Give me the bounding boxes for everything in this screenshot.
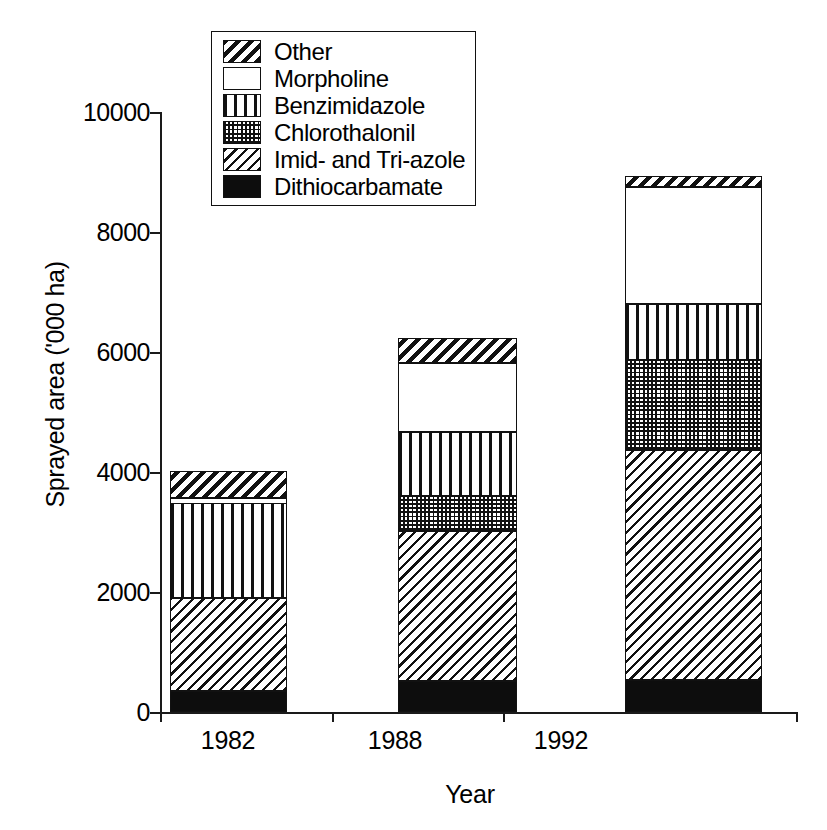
legend-label-imid-and-tri-azole: Imid- and Tri-azole <box>274 148 465 172</box>
y-tick-2000 <box>150 592 161 594</box>
y-tick-8000 <box>150 232 161 234</box>
legend-item-morpholine: Morpholine <box>223 66 389 91</box>
legend-swatch-imid-and-tri-azole-icon <box>223 148 261 171</box>
y-axis-line <box>160 112 162 714</box>
legend: Other Morpholine Benzimidazole Chlorotha… <box>211 31 476 206</box>
y-tick-4000 <box>150 472 161 474</box>
legend-item-benzimidazole: Benzimidazole <box>223 93 425 118</box>
x-axis-line <box>160 712 798 714</box>
y-tick-10000 <box>150 112 161 114</box>
x-tick-left <box>160 712 162 722</box>
legend-item-other: Other <box>223 39 332 64</box>
legend-swatch-other-icon <box>223 40 261 63</box>
x-axis-title: Year <box>300 780 640 809</box>
legend-label-chlorothalonil: Chlorothalonil <box>274 121 415 145</box>
legend-swatch-chlorothalonil-icon <box>223 121 261 144</box>
legend-swatch-morpholine-icon <box>223 67 261 90</box>
legend-label-other: Other <box>274 40 332 64</box>
bar-segment-1992-chlorothalonil <box>625 360 762 450</box>
x-tick-2 <box>503 712 505 722</box>
bar-segment-1982-benzimidazole <box>170 503 287 598</box>
bar-segment-1992-imid-and-tri-azole <box>625 450 762 680</box>
legend-swatch-dithiocarbamate-icon <box>223 175 261 198</box>
legend-swatch-benzimidazole-icon <box>223 94 261 117</box>
bar-segment-1988-imid-and-tri-azole <box>398 531 517 681</box>
bar-segment-1988-morpholine <box>398 363 517 432</box>
y-tick-label-4000: 4000 <box>76 460 150 485</box>
y-tick-label-10000: 10000 <box>76 100 150 125</box>
x-tick-label-1988: 1988 <box>305 726 485 755</box>
x-tick-right <box>796 712 798 722</box>
chart-canvas: 10000 8000 6000 4000 2000 0 Sprayed area… <box>0 0 827 830</box>
bar-segment-1982-other <box>170 471 287 498</box>
y-tick-6000 <box>150 352 161 354</box>
legend-item-chlorothalonil: Chlorothalonil <box>223 120 415 145</box>
x-tick-label-1992: 1992 <box>471 726 651 755</box>
legend-label-benzimidazole: Benzimidazole <box>274 94 425 118</box>
bar-segment-1988-benzimidazole <box>398 432 517 496</box>
x-tick-1 <box>332 712 334 722</box>
legend-label-dithiocarbamate: Dithiocarbamate <box>274 175 443 199</box>
bar-segment-1982-morpholine <box>170 498 287 504</box>
y-tick-label-0: 0 <box>76 700 150 725</box>
y-tick-label-6000: 6000 <box>76 340 150 365</box>
legend-item-imid-and-tri-azole: Imid- and Tri-azole <box>223 147 465 172</box>
bar-segment-1988-dithiocarbamate <box>398 681 517 712</box>
bar-segment-1992-morpholine <box>625 187 762 304</box>
legend-label-morpholine: Morpholine <box>274 67 389 91</box>
bar-segment-1982-dithiocarbamate <box>170 691 287 712</box>
bar-segment-1992-other <box>625 176 762 187</box>
x-tick-label-1982: 1982 <box>138 726 318 755</box>
bar-segment-1988-other <box>398 338 517 363</box>
legend-item-dithiocarbamate: Dithiocarbamate <box>223 174 443 199</box>
y-tick-label-8000: 8000 <box>76 220 150 245</box>
bar-segment-1982-imid-and-tri-azole <box>170 598 287 691</box>
bar-segment-1992-dithiocarbamate <box>625 680 762 712</box>
bar-segment-1988-chlorothalonil <box>398 496 517 531</box>
bar-segment-1992-benzimidazole <box>625 304 762 360</box>
y-tick-label-2000: 2000 <box>76 580 150 605</box>
y-axis-title: Sprayed area ('000 ha) <box>41 175 70 595</box>
